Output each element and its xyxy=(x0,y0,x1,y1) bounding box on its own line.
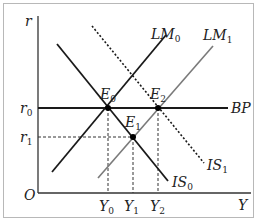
y-axis-label: r xyxy=(25,13,33,29)
r0-label: r0 xyxy=(20,100,33,118)
lm0-curve xyxy=(52,35,166,172)
e0-point xyxy=(105,105,111,111)
origin-label: O xyxy=(24,187,36,203)
e1-point xyxy=(130,134,136,140)
lm0-label: LM0 xyxy=(150,26,181,44)
x-axis-label: Y xyxy=(238,197,249,213)
e0-label: E0 xyxy=(99,86,116,104)
is0-label: IS0 xyxy=(171,174,193,192)
e2-point xyxy=(155,105,161,111)
e1-label: E1 xyxy=(124,114,141,132)
lm1-label: LM1 xyxy=(202,27,232,45)
y0-label: Y0 xyxy=(99,198,114,216)
y2-label: Y2 xyxy=(150,198,165,216)
lm1-curve xyxy=(98,46,213,178)
is-lm-bp-diagram: r Y O r0 r1 Y0 Y1 Y2 LM0 LM1 IS0 IS1 BP … xyxy=(0,0,259,223)
is1-label: IS1 xyxy=(206,157,228,175)
y1-label: Y1 xyxy=(124,198,139,216)
r1-label: r1 xyxy=(20,129,32,147)
bp-label: BP xyxy=(230,100,251,116)
e2-label: E2 xyxy=(149,86,166,104)
